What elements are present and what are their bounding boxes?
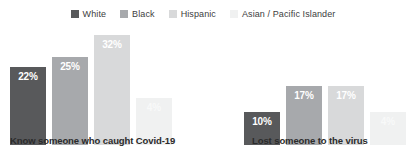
grouped-bar-chart: White Black Hispanic Asian / Pacific Isl…: [0, 0, 406, 158]
legend-label-white: White: [83, 10, 107, 19]
bar-value-label: 17%: [328, 91, 364, 101]
bar-value-label: 22%: [10, 72, 46, 82]
category-label-know-someone: Know someone who caught Covid-19: [10, 136, 175, 146]
bar-asian-pacific-islander[interactable]: 4%: [370, 112, 406, 145]
chart-legend: White Black Hispanic Asian / Pacific Isl…: [0, 6, 406, 22]
bar-value-label: 10%: [244, 117, 280, 127]
bar-white[interactable]: 22%: [10, 67, 46, 145]
legend-item-black[interactable]: Black: [120, 10, 155, 19]
legend-label-hispanic: Hispanic: [181, 10, 216, 19]
bar-value-label: 25%: [52, 62, 88, 72]
bar-group-lost-someone: 10% 17% 17% 4%: [244, 24, 406, 145]
bar-group-know-someone: 22% 25% 32% 4%: [10, 24, 166, 145]
legend-swatch-black: [120, 10, 128, 18]
category-label-lost-someone: Lost someone to the virus: [252, 136, 368, 146]
legend-label-black: Black: [132, 10, 155, 19]
bar-slot-asian-pacific-islander: 4%: [136, 24, 172, 145]
bar-slot-asian-pacific-islander: 4%: [370, 24, 406, 145]
bar-value-label: 17%: [286, 91, 322, 101]
bar-slot-black: 17%: [286, 24, 322, 145]
bar-slot-hispanic: 17%: [328, 24, 364, 145]
bar-slot-black: 25%: [52, 24, 88, 145]
bar-slot-white: 22%: [10, 24, 46, 145]
plot-area: 22% 25% 32% 4%: [0, 24, 406, 158]
legend-item-asian-pacific-islander[interactable]: Asian / Pacific Islander: [230, 10, 335, 19]
legend-swatch-hispanic: [169, 10, 177, 18]
legend-label-asian-pacific-islander: Asian / Pacific Islander: [242, 10, 335, 19]
bar-black[interactable]: 25%: [52, 57, 88, 145]
bar-hispanic[interactable]: 32%: [94, 35, 130, 145]
legend-item-white[interactable]: White: [71, 10, 107, 19]
bar-slot-hispanic: 32%: [94, 24, 130, 145]
bar-group-bars: 10% 17% 17% 4%: [244, 24, 406, 145]
bar-value-label: 32%: [94, 40, 130, 50]
bar-slot-white: 10%: [244, 24, 280, 145]
bar-group-bars: 22% 25% 32% 4%: [10, 24, 166, 145]
bar-value-label: 4%: [136, 103, 172, 113]
legend-item-hispanic[interactable]: Hispanic: [169, 10, 216, 19]
legend-swatch-asian-pacific-islander: [230, 10, 238, 18]
legend-swatch-white: [71, 10, 79, 18]
bar-value-label: 4%: [370, 117, 406, 127]
